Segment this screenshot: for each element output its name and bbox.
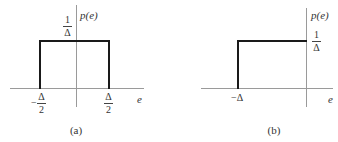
height-label-denominator: Δ <box>312 43 320 53</box>
y-axis <box>306 8 307 107</box>
pdf-top-edge <box>237 40 307 42</box>
caption-b: (b) <box>268 124 281 136</box>
panel-b: p(e) 1 Δ −Δ e (b) <box>0 0 338 142</box>
x-axis-label: e <box>328 94 333 105</box>
pdf-left-edge <box>237 40 239 89</box>
left-tick-label: −Δ <box>231 93 243 103</box>
x-axis <box>201 88 333 89</box>
y-axis-label: p(e) <box>311 10 329 21</box>
height-label-numerator: 1 <box>313 30 320 40</box>
height-label: 1 Δ <box>312 30 321 53</box>
